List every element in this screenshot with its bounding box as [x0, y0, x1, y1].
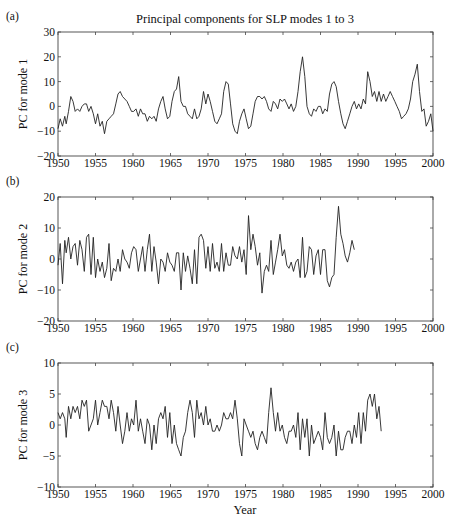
x-tick-label: 1990: [347, 322, 370, 334]
series-line-pc1: [58, 57, 433, 134]
x-tick-label: 1955: [84, 157, 107, 169]
y-axis-label: PC for mode 3: [16, 390, 30, 460]
x-tick-label: 1980: [272, 157, 295, 169]
x-tick-label: 2000: [422, 322, 445, 334]
y-tick-label: 30: [44, 26, 56, 38]
figure: Principal components for SLP modes 1 to …: [0, 0, 457, 524]
y-tick-label: 5: [49, 388, 55, 400]
panel-2: 1950195519601965197019751980198519901995…: [6, 175, 445, 334]
x-tick-label: 1985: [309, 488, 332, 500]
x-tick-label: 1995: [384, 322, 407, 334]
panel-label: (c): [6, 341, 19, 354]
y-tick-label: −10: [37, 481, 55, 493]
x-tick-label: 1955: [84, 488, 107, 500]
y-tick-label: 0: [49, 100, 55, 112]
y-tick-label: 0: [49, 253, 55, 265]
x-tick-label: 1995: [384, 157, 407, 169]
x-axis-label: Year: [233, 503, 257, 517]
x-tick-label: 1960: [122, 488, 145, 500]
x-tick-label: 1960: [122, 322, 145, 334]
y-tick-label: −20: [37, 150, 55, 162]
panel-label: (a): [6, 10, 19, 23]
x-tick-label: 1975: [234, 157, 257, 169]
x-tick-label: 1985: [309, 157, 332, 169]
panel-label: (b): [6, 175, 20, 188]
x-tick-label: 1990: [347, 488, 370, 500]
x-tick-label: 1980: [272, 488, 295, 500]
x-tick-label: 1970: [197, 488, 220, 500]
y-tick-label: −20: [37, 315, 55, 327]
axes-frame: [58, 32, 433, 156]
panels: 1950195519601965197019751980198519901995…: [6, 10, 445, 500]
series-line-pc2: [58, 206, 354, 293]
x-tick-label: 1955: [84, 322, 107, 334]
axes-frame: [58, 363, 433, 487]
x-tick-label: 1985: [309, 322, 332, 334]
figure-title: Principal components for SLP modes 1 to …: [136, 12, 354, 26]
y-tick-label: 10: [44, 76, 56, 88]
chart-svg: Principal components for SLP modes 1 to …: [0, 0, 457, 524]
series-line-pc3: [58, 388, 381, 456]
y-tick-label: −10: [37, 125, 55, 137]
x-tick-label: 1970: [197, 322, 220, 334]
y-tick-label: 10: [44, 357, 56, 369]
x-tick-label: 2000: [422, 157, 445, 169]
y-tick-label: −10: [37, 284, 55, 296]
y-axis-label: PC for mode 1: [16, 59, 30, 129]
y-tick-label: 20: [44, 191, 56, 203]
x-tick-label: 1975: [234, 488, 257, 500]
x-tick-label: 1980: [272, 322, 295, 334]
axes-frame: [58, 197, 433, 321]
x-tick-label: 1970: [197, 157, 220, 169]
x-tick-label: 1965: [159, 488, 182, 500]
y-axis-label: PC for mode 2: [16, 224, 30, 294]
x-tick-label: 1990: [347, 157, 370, 169]
y-tick-label: 20: [44, 51, 56, 63]
x-tick-label: 1995: [384, 488, 407, 500]
y-tick-label: 0: [49, 419, 55, 431]
panel-1: 1950195519601965197019751980198519901995…: [6, 10, 445, 169]
panel-3: 1950195519601965197019751980198519901995…: [6, 341, 445, 500]
y-tick-label: −5: [43, 450, 55, 462]
x-tick-label: 1960: [122, 157, 145, 169]
x-tick-label: 1975: [234, 322, 257, 334]
x-tick-label: 1965: [159, 322, 182, 334]
x-tick-label: 2000: [422, 488, 445, 500]
x-tick-label: 1965: [159, 157, 182, 169]
y-tick-label: 10: [44, 222, 56, 234]
